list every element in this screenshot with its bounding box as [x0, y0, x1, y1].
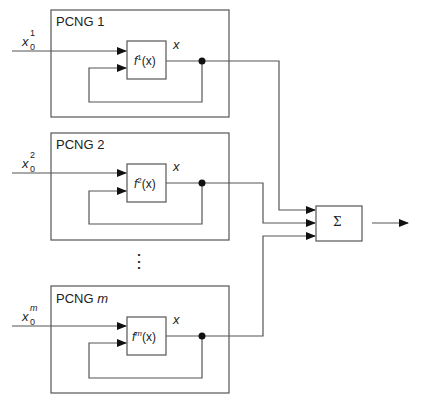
pcng-2-func-label: f2(x): [134, 176, 156, 191]
ellipsis: ⋮: [130, 252, 148, 270]
pcng-2-output-label: x: [173, 159, 180, 174]
pcng-1-input-label: x01: [22, 34, 29, 49]
diagram-canvas: [0, 0, 422, 402]
pcng-m-func-label: fm(x): [132, 329, 156, 344]
pcng-m-label: PCNG m: [56, 291, 108, 306]
pcng-1-label: PCNG 1: [56, 14, 104, 29]
pcng-1-output-label: x: [173, 37, 180, 52]
pcng-1-func-label: f1(x): [134, 53, 156, 68]
pcng-2-input-label: x02: [22, 156, 29, 171]
pcng-m-input-label: x0m: [22, 309, 29, 324]
pcng-m-output-label: x: [173, 312, 180, 327]
sigma-symbol: Σ: [333, 215, 341, 229]
pcng-2-label: PCNG 2: [56, 137, 104, 152]
